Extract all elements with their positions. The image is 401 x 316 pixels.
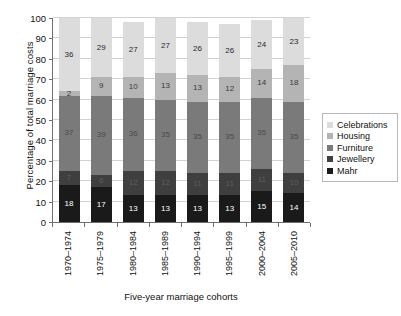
x-tick-label: 1980–1984 (128, 231, 138, 276)
bar-stack[interactable]: 1311351326 (187, 18, 208, 222)
bar-segment-housing[interactable]: 13 (187, 75, 208, 102)
bar-segment-value: 6 (99, 177, 103, 185)
legend-item-jewellery[interactable]: Jewellery (327, 154, 394, 164)
bar-segment-housing[interactable]: 12 (219, 77, 240, 101)
chart-legend: CelebrationsHousingFurnitureJewelleryMah… (322, 113, 398, 182)
bar-segment-value: 35 (257, 129, 266, 137)
x-axis-labels: 1970–19741975–19791980–19841985–19891990… (52, 229, 310, 287)
x-tick-mark (246, 223, 247, 227)
legend-swatch-icon (327, 145, 333, 151)
x-tick-mark (213, 223, 214, 227)
bar-segment-furniture[interactable]: 35 (187, 102, 208, 173)
legend-item-housing[interactable]: Housing (327, 131, 394, 141)
bar-stack[interactable]: 1511351424 (251, 18, 272, 222)
bar-segment-housing[interactable]: 10 (123, 77, 144, 97)
bar-segment-mahr[interactable]: 14 (283, 193, 304, 222)
y-tick-label: 60 (35, 94, 46, 105)
bar-segment-value: 39 (97, 131, 106, 139)
bar-segment-jewellery[interactable]: 11 (251, 169, 272, 191)
bar-segment-celebrations[interactable]: 26 (219, 24, 240, 77)
bar-column[interactable]: 1311351326 (182, 18, 214, 222)
bar-column[interactable]: 1312361027 (117, 18, 149, 222)
legend-item-celebrations[interactable]: Celebrations (327, 120, 394, 130)
bar-segment-furniture[interactable]: 35 (251, 98, 272, 169)
y-tick-label: 20 (35, 176, 46, 187)
bar-segment-jewellery[interactable]: 6 (91, 175, 112, 187)
bar-segment-furniture[interactable]: 36 (123, 98, 144, 171)
bar-column[interactable]: 1410351823 (278, 18, 310, 222)
x-label-cell: 1975–1979 (84, 229, 116, 287)
y-tick-label: 0 (41, 217, 46, 228)
stacked-bar-chart: Percentage of total marriage costs 01020… (0, 0, 401, 316)
bar-segment-value: 36 (65, 51, 74, 59)
legend-swatch-icon (327, 156, 333, 162)
bar-segment-furniture[interactable]: 35 (219, 102, 240, 173)
x-label-cell: 1995–1999 (213, 229, 245, 287)
bar-segment-value: 9 (99, 82, 103, 90)
x-label-cell: 1990–1994 (181, 229, 213, 287)
bar-segment-jewellery[interactable]: 12 (155, 171, 176, 195)
bar-segment-jewellery[interactable]: 12 (123, 171, 144, 195)
bar-segment-jewellery[interactable]: 11 (219, 173, 240, 195)
legend-item-mahr[interactable]: Mahr (327, 166, 394, 176)
y-tick-label: 80 (35, 53, 46, 64)
bar-stack[interactable]: 18737236 (59, 18, 80, 222)
bar-segment-housing[interactable]: 13 (155, 73, 176, 100)
bar-stack[interactable]: 17639929 (91, 18, 112, 222)
y-axis-title: Percentage of total marriage costs (24, 11, 35, 221)
bar-segment-mahr[interactable]: 17 (91, 187, 112, 222)
bar-segment-furniture[interactable]: 35 (155, 100, 176, 171)
bar-segment-housing[interactable]: 18 (283, 65, 304, 102)
bar-stack[interactable]: 1312361027 (123, 18, 144, 222)
legend-label: Mahr (337, 166, 358, 176)
x-tick-label: 1990–1994 (192, 231, 202, 276)
x-label-cell: 1980–1984 (117, 229, 149, 287)
bar-segment-mahr[interactable]: 13 (123, 195, 144, 222)
bar-stack[interactable]: 1312351327 (155, 18, 176, 222)
bar-column[interactable]: 17639929 (85, 18, 117, 222)
bar-segment-value: 35 (193, 133, 202, 141)
bar-segment-housing[interactable]: 9 (91, 77, 112, 95)
x-tick-label: 1995–1999 (224, 231, 234, 276)
legend-label: Jewellery (337, 154, 375, 164)
x-axis-ticks (52, 223, 310, 228)
bar-segment-value: 35 (161, 131, 170, 139)
bar-segment-mahr[interactable]: 13 (187, 195, 208, 222)
bar-column[interactable]: 1311351226 (214, 18, 246, 222)
bar-segment-mahr[interactable]: 13 (219, 195, 240, 222)
bar-segment-celebrations[interactable]: 36 (59, 18, 80, 91)
bar-segment-value: 36 (129, 130, 138, 138)
bar-segment-jewellery[interactable]: 7 (59, 171, 80, 185)
bar-column[interactable]: 1511351424 (246, 18, 278, 222)
bar-stack[interactable]: 1410351823 (283, 18, 304, 222)
legend-item-furniture[interactable]: Furniture (327, 143, 394, 153)
y-tick-label: 40 (35, 135, 46, 146)
bar-segment-furniture[interactable]: 39 (91, 96, 112, 176)
bar-segment-value: 35 (289, 133, 298, 141)
bar-segment-mahr[interactable]: 18 (59, 185, 80, 222)
bar-segment-value: 26 (193, 45, 202, 53)
bar-segment-furniture[interactable]: 37 (59, 96, 80, 171)
bar-segment-mahr[interactable]: 15 (251, 191, 272, 222)
bar-segment-housing[interactable]: 2 (59, 91, 80, 95)
bar-segment-celebrations[interactable]: 27 (155, 18, 176, 73)
bar-column[interactable]: 18737236 (53, 18, 85, 222)
bar-segment-celebrations[interactable]: 24 (251, 20, 272, 69)
bar-segment-housing[interactable]: 14 (251, 69, 272, 98)
bar-segment-celebrations[interactable]: 26 (187, 22, 208, 75)
bar-segment-celebrations[interactable]: 23 (283, 18, 304, 65)
bar-column[interactable]: 1312351327 (149, 18, 181, 222)
legend-swatch-icon (327, 133, 333, 139)
bar-segment-mahr[interactable]: 13 (155, 195, 176, 222)
bar-segment-value: 18 (289, 79, 298, 87)
bar-segment-value: 27 (129, 46, 138, 54)
bar-segment-jewellery[interactable]: 10 (283, 173, 304, 193)
x-tick-mark (278, 223, 279, 227)
bar-segment-jewellery[interactable]: 11 (187, 173, 208, 195)
bar-segment-celebrations[interactable]: 29 (91, 18, 112, 77)
bar-segment-celebrations[interactable]: 27 (123, 22, 144, 77)
x-label-cell: 2000–2004 (246, 229, 278, 287)
legend-label: Housing (337, 131, 370, 141)
bar-segment-furniture[interactable]: 35 (283, 102, 304, 173)
bar-stack[interactable]: 1311351226 (219, 18, 240, 222)
